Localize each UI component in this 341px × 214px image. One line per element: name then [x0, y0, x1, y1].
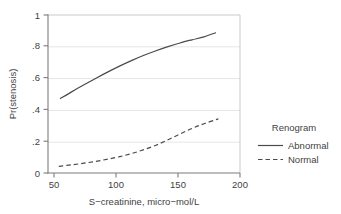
x-axis-ticks	[54, 173, 240, 178]
legend-label-abnormal: Abnormal	[288, 140, 329, 151]
chart-figure: 0 .2 .4 .6 .8 1 50 100 150 200 S−creatin…	[0, 0, 341, 214]
x-tick-label-100: 100	[108, 179, 124, 190]
plot-area-background	[48, 14, 240, 173]
legend: Renogram Abnormal Normal	[258, 122, 329, 165]
y-tick-label-0.8: .8	[32, 40, 40, 51]
y-tick-label-0: 0	[35, 168, 40, 179]
y-tick-label-0.2: .2	[32, 136, 40, 147]
x-axis-title: S−creatinine, micro−mol/L	[89, 196, 199, 207]
y-axis-ticks	[44, 15, 49, 173]
y-tick-label-0.6: .6	[32, 72, 40, 83]
legend-title: Renogram	[272, 122, 316, 133]
y-tick-label-0.4: .4	[32, 104, 40, 115]
y-tick-label-1: 1	[35, 10, 40, 21]
x-tick-label-150: 150	[170, 179, 186, 190]
chart-canvas: 0 .2 .4 .6 .8 1 50 100 150 200 S−creatin…	[0, 0, 341, 214]
x-tick-label-200: 200	[232, 179, 248, 190]
legend-label-normal: Normal	[288, 154, 319, 165]
x-tick-label-50: 50	[49, 179, 60, 190]
y-axis-title: Pr(stenosis)	[7, 69, 18, 120]
